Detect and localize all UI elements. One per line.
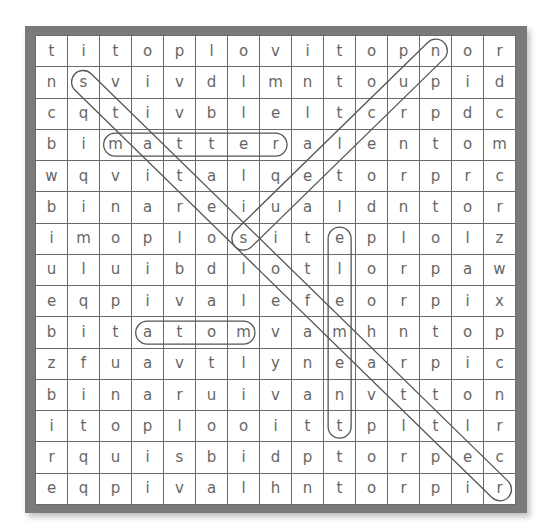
letter-cell[interactable]: i <box>132 473 164 504</box>
letter-cell[interactable]: d <box>196 254 228 285</box>
letter-cell[interactable]: i <box>452 348 484 379</box>
letter-cell[interactable]: z <box>484 223 516 254</box>
letter-cell[interactable]: d <box>452 98 484 129</box>
letter-cell[interactable]: f <box>68 348 100 379</box>
letter-cell[interactable]: o <box>356 286 388 317</box>
letter-cell[interactable]: a <box>292 192 324 223</box>
letter-cell[interactable]: e <box>196 192 228 223</box>
letter-cell[interactable]: a <box>196 473 228 504</box>
letter-cell[interactable]: y <box>260 348 292 379</box>
letter-cell[interactable]: t <box>100 317 132 348</box>
letter-cell[interactable]: i <box>132 161 164 192</box>
letter-cell[interactable]: r <box>260 129 292 160</box>
letter-cell[interactable]: r <box>388 473 420 504</box>
letter-cell[interactable]: l <box>292 98 324 129</box>
letter-cell[interactable]: u <box>100 254 132 285</box>
letter-cell[interactable]: l <box>228 98 260 129</box>
letter-cell[interactable]: t <box>292 411 324 442</box>
letter-cell[interactable]: d <box>484 67 516 98</box>
letter-cell[interactable]: t <box>420 379 452 410</box>
letter-cell[interactable]: q <box>68 286 100 317</box>
letter-cell[interactable]: d <box>196 67 228 98</box>
letter-cell[interactable]: l <box>228 67 260 98</box>
letter-cell[interactable]: t <box>324 411 356 442</box>
letter-cell[interactable]: t <box>324 442 356 473</box>
letter-cell[interactable]: s <box>228 223 260 254</box>
letter-cell[interactable]: l <box>228 473 260 504</box>
letter-cell[interactable]: v <box>100 161 132 192</box>
letter-cell[interactable]: a <box>196 161 228 192</box>
letter-cell[interactable]: u <box>260 192 292 223</box>
letter-cell[interactable]: z <box>36 348 68 379</box>
letter-cell[interactable]: o <box>356 442 388 473</box>
letter-cell[interactable]: v <box>164 473 196 504</box>
letter-cell[interactable]: r <box>388 254 420 285</box>
letter-cell[interactable]: o <box>100 411 132 442</box>
letter-cell[interactable]: n <box>292 348 324 379</box>
letter-cell[interactable]: q <box>68 442 100 473</box>
letter-cell[interactable]: e <box>292 161 324 192</box>
letter-cell[interactable]: l <box>164 223 196 254</box>
letter-cell[interactable]: b <box>36 129 68 160</box>
letter-cell[interactable]: p <box>292 442 324 473</box>
letter-cell[interactable]: m <box>228 317 260 348</box>
letter-cell[interactable]: o <box>196 411 228 442</box>
letter-cell[interactable]: c <box>484 442 516 473</box>
letter-cell[interactable]: t <box>420 317 452 348</box>
letter-cell[interactable]: a <box>452 254 484 285</box>
letter-cell[interactable]: n <box>292 473 324 504</box>
letter-cell[interactable]: l <box>228 348 260 379</box>
letter-cell[interactable]: v <box>260 317 292 348</box>
letter-cell[interactable]: m <box>100 129 132 160</box>
letter-cell[interactable]: b <box>196 442 228 473</box>
letter-cell[interactable]: b <box>36 192 68 223</box>
letter-cell[interactable]: p <box>420 98 452 129</box>
letter-cell[interactable]: o <box>356 67 388 98</box>
letter-cell[interactable]: p <box>420 67 452 98</box>
letter-cell[interactable]: o <box>260 254 292 285</box>
letter-cell[interactable]: l <box>324 129 356 160</box>
letter-cell[interactable]: i <box>228 379 260 410</box>
letter-cell[interactable]: e <box>228 129 260 160</box>
letter-cell[interactable]: i <box>68 379 100 410</box>
letter-cell[interactable]: i <box>68 192 100 223</box>
letter-cell[interactable]: u <box>36 254 68 285</box>
letter-cell[interactable]: r <box>388 348 420 379</box>
letter-cell[interactable]: o <box>356 36 388 67</box>
letter-cell[interactable]: l <box>452 223 484 254</box>
letter-cell[interactable]: a <box>132 348 164 379</box>
letter-cell[interactable]: e <box>356 129 388 160</box>
letter-cell[interactable]: w <box>484 254 516 285</box>
letter-cell[interactable]: o <box>452 317 484 348</box>
letter-cell[interactable]: t <box>164 129 196 160</box>
letter-cell[interactable]: r <box>388 161 420 192</box>
letter-cell[interactable]: i <box>132 67 164 98</box>
letter-cell[interactable]: e <box>324 223 356 254</box>
letter-cell[interactable]: r <box>388 442 420 473</box>
letter-cell[interactable]: l <box>68 254 100 285</box>
letter-cell[interactable]: a <box>356 348 388 379</box>
letter-cell[interactable]: p <box>100 473 132 504</box>
letter-cell[interactable]: t <box>164 317 196 348</box>
letter-cell[interactable]: i <box>228 442 260 473</box>
letter-cell[interactable]: i <box>132 254 164 285</box>
letter-cell[interactable]: i <box>68 36 100 67</box>
letter-cell[interactable]: u <box>100 348 132 379</box>
letter-cell[interactable]: i <box>452 473 484 504</box>
letter-cell[interactable]: b <box>196 98 228 129</box>
letter-cell[interactable]: i <box>260 411 292 442</box>
letter-cell[interactable]: r <box>164 379 196 410</box>
letter-cell[interactable]: s <box>164 442 196 473</box>
letter-cell[interactable]: n <box>292 67 324 98</box>
letter-cell[interactable]: i <box>452 286 484 317</box>
letter-cell[interactable]: a <box>132 129 164 160</box>
letter-cell[interactable]: o <box>452 36 484 67</box>
letter-cell[interactable]: q <box>68 161 100 192</box>
letter-cell[interactable]: q <box>68 473 100 504</box>
letter-cell[interactable]: p <box>420 254 452 285</box>
letter-cell[interactable]: p <box>132 411 164 442</box>
letter-cell[interactable]: a <box>292 379 324 410</box>
letter-cell[interactable]: h <box>260 473 292 504</box>
letter-cell[interactable]: o <box>228 411 260 442</box>
letter-cell[interactable]: a <box>132 192 164 223</box>
